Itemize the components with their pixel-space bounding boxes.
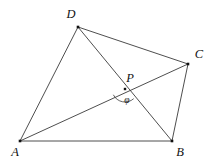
segment-cd (78, 27, 188, 64)
vertex-point-p (124, 88, 126, 90)
segment-da (20, 27, 78, 141)
segment-bc (172, 64, 188, 141)
labels-layer: φABCDP (10, 7, 204, 159)
vertex-point-c (187, 63, 190, 66)
vertex-label-b: B (176, 145, 184, 159)
segments-layer (20, 27, 188, 141)
figure-canvas: φABCDP (0, 0, 218, 165)
vertex-label-d: D (65, 7, 75, 21)
geometry-figure: φABCDP (0, 0, 218, 165)
vertex-label-c: C (195, 47, 204, 61)
vertex-label-a: A (10, 145, 19, 159)
vertex-point-d (77, 26, 80, 29)
points-layer (19, 26, 190, 143)
vertex-point-b (171, 140, 174, 143)
segment-db (78, 27, 172, 141)
vertex-point-a (19, 140, 22, 143)
angle-label-phi: φ (124, 95, 129, 105)
vertex-label-p: P (125, 71, 134, 85)
